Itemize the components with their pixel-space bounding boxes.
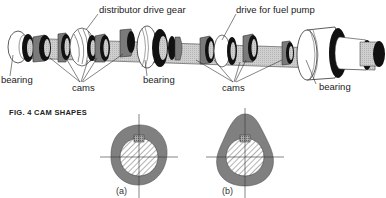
label-bearing-left: bearing [1,75,33,85]
camshaft [8,14,385,84]
camshaft-diagram [0,0,386,198]
label-cams-left: cams [72,83,95,93]
cam-shape-a [100,114,178,198]
cam-8 [243,34,258,62]
cam-shape-a-label: (a) [116,186,127,196]
cam-4 [95,34,110,62]
cam-7 [200,36,215,64]
cam-6 [168,36,182,60]
label-distributor-drive-gear: distributor drive gear [99,5,186,15]
label-bearing-right: bearing [319,82,351,92]
bearing-middle [137,26,168,68]
figure-title: FIG. 4 CAM SHAPES [9,108,87,117]
bearing-right [297,27,385,80]
cam-shape-b [206,108,284,198]
cam-2 [33,35,51,62]
fuel-pump-drive [214,35,237,67]
cam-1 [22,34,34,62]
label-cams-right: cams [222,83,245,93]
label-bearing-middle: bearing [143,75,175,85]
cam-shape-b-label: (b) [222,186,233,196]
label-drive-for-fuel-pump: drive for fuel pump [236,5,315,15]
cam-9 [282,41,294,65]
distributor-drive-gear [70,28,97,66]
